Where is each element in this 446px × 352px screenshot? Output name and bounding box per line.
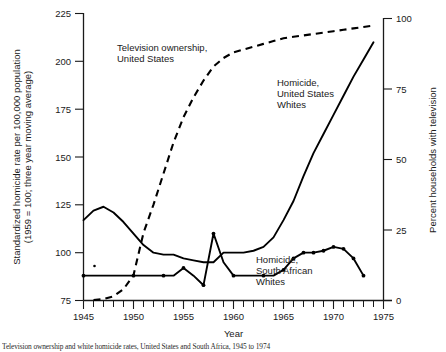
data-point-marker [182,266,186,270]
annotation-television-ownership: Television ownership, United States [117,42,207,64]
plot-layer [82,26,374,300]
y-tick-label-125: 125 [55,199,71,210]
y2-tick-label-25: 25 [396,225,407,236]
data-point-marker [312,251,316,255]
figure-caption: Television ownership and white homicide … [2,343,446,351]
data-point-marker [212,232,216,236]
x-tick-label-1975: 1975 [373,311,394,322]
y-axis-left: 225 200 175 150 125 100 75 [55,8,83,306]
y-axis-right-ticks [384,19,393,301]
y-axis-right-title: Percent households with television [427,87,438,233]
annot-us-line2: United States [277,88,334,99]
y2-tick-label-50: 50 [396,154,407,165]
annot-tv-line1: Television ownership, [117,42,207,53]
data-point-marker [202,283,206,287]
data-point-marker [362,274,366,278]
annotation-homicide-us-whites: Homicide, United States Whites [277,77,334,110]
y2-tick-label-0: 0 [396,295,401,306]
x-tick-label-1945: 1945 [73,311,94,322]
annot-tv-line2: United States [117,53,174,64]
data-point-marker [342,247,346,251]
x-tick-label-1955: 1955 [173,311,194,322]
y-tick-label-175: 175 [55,104,71,115]
y2-tick-label-100: 100 [396,13,412,24]
x-axis-major-ticks [84,301,384,310]
annot-us-line1: Homicide, [277,77,319,88]
x-tick-label-1965: 1965 [273,311,294,322]
y-axis-left-ticks [75,14,84,301]
data-point-marker [332,245,336,249]
x-tick-label-1960: 1960 [223,311,244,322]
data-point-marker [82,274,86,278]
y-tick-label-200: 200 [55,56,71,67]
stray-data-point-icon [93,265,96,268]
y-tick-label-150: 150 [55,152,71,163]
annot-sa-line1: Homicide, [256,254,298,265]
y2-tick-label-75: 75 [396,84,407,95]
y-axis-left-title-line2: (1959 = 100; three year moving average) [22,71,33,243]
x-tick-label-1970: 1970 [323,311,344,322]
y-tick-label-225: 225 [55,8,71,19]
data-point-marker [302,251,306,255]
data-point-marker [232,274,236,278]
annotation-homicide-sa-whites: Homicide, South African Whites [256,254,313,287]
data-point-marker [352,257,356,261]
data-point-marker [132,274,136,278]
y-tick-label-100: 100 [55,247,71,258]
x-tick-label-1950: 1950 [123,311,144,322]
series-line-television-ownership-united-states [94,26,374,300]
x-axis-title: Year [224,328,243,339]
data-point-marker [322,249,326,253]
y-axis-left-title: Standardized homicide rate per 100,000 p… [11,49,33,265]
chart-canvas: 225 200 175 150 125 100 75 Standardized … [0,0,446,352]
annot-sa-line3: Whites [256,276,285,287]
annot-us-line3: Whites [277,99,306,110]
data-point-marker [162,274,166,278]
series-line-homicide-united-states-whites [84,42,374,262]
annot-sa-line2: South African [256,265,313,276]
y-tick-label-75: 75 [60,295,71,306]
figure-container: 225 200 175 150 125 100 75 Standardized … [0,0,446,352]
y-axis-left-title-line1: Standardized homicide rate per 100,000 p… [11,49,22,265]
y-axis-right: 100 75 50 25 0 Percent households with t… [384,13,439,306]
x-axis: 1945 1950 1955 1960 1965 1970 1975 Year [73,301,394,340]
series-line-homicide-south-african-whites [84,234,364,286]
